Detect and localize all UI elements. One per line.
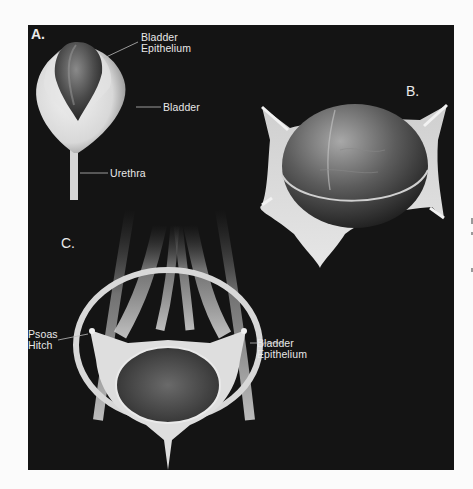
anatomy-illustration — [28, 25, 454, 470]
label-bladder-a: Bladder — [163, 102, 200, 113]
label-psoas-hitch: Psoas Hitch — [28, 329, 58, 351]
panel-c-letter: C. — [61, 235, 75, 251]
label-bladder-epithelium-a: Bladder Epithelium — [141, 32, 191, 54]
panel-b-drawing — [260, 104, 447, 268]
label-bladder-epithelium-c: Bladder Epithelium — [257, 338, 307, 360]
panel-a-letter: A. — [31, 26, 45, 42]
panel-c-drawing — [58, 210, 283, 470]
panel-b-letter: B. — [406, 83, 419, 99]
label-urethra: Urethra — [110, 168, 146, 179]
illustration-frame: A. B. C. Bladder Epithelium Bladder Uret… — [28, 25, 454, 470]
